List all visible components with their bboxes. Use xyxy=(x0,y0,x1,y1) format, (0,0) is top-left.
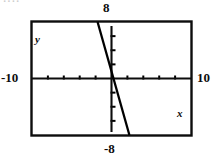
graphing-calculator-figure: ···· 8 -8 -10 10 y x xyxy=(0,0,218,162)
plot-canvas xyxy=(0,0,218,162)
